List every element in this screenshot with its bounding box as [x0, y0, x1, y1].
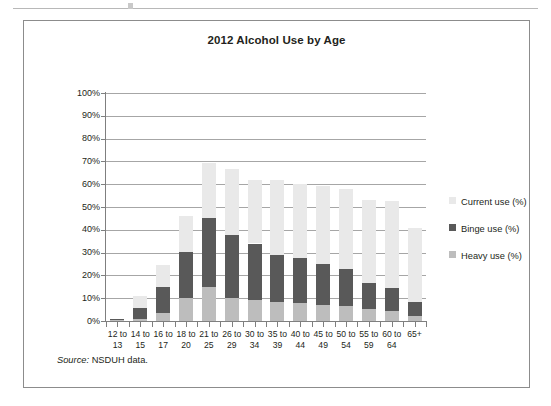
bar-segment-binge[interactable] [248, 244, 262, 301]
x-axis-tick-mark [369, 322, 370, 327]
x-axis-tick-mark [163, 322, 164, 327]
bar-segment-current[interactable] [225, 169, 239, 235]
y-axis-tick-label: 0% [64, 317, 100, 326]
bar-segment-heavy[interactable] [293, 303, 307, 321]
bar-stack[interactable] [179, 93, 193, 321]
chart-title: 2012 Alcohol Use by Age [24, 34, 529, 46]
bar-stack[interactable] [202, 93, 216, 321]
y-axis-tick-label: 90% [64, 111, 100, 120]
x-axis-tick-mark [209, 322, 210, 327]
bar-segment-heavy[interactable] [385, 311, 399, 321]
bar-segment-binge[interactable] [339, 269, 353, 306]
x-axis-tick-mark [403, 322, 404, 327]
bar-segment-binge[interactable] [225, 235, 239, 298]
bar-segment-current[interactable] [316, 186, 330, 264]
bar-stack[interactable] [316, 93, 330, 321]
bar-segment-heavy[interactable] [202, 287, 216, 321]
y-axis-tick-label: 30% [64, 248, 100, 257]
x-axis-tick-mark [152, 322, 153, 327]
bar-segment-heavy[interactable] [179, 298, 193, 321]
x-axis-tick-mark [266, 322, 267, 327]
bar-segment-binge[interactable] [362, 283, 376, 310]
bar-stack[interactable] [362, 93, 376, 321]
y-axis-tick-label: 70% [64, 157, 100, 166]
x-axis-tick-mark [357, 322, 358, 327]
x-axis-tick-mark [243, 322, 244, 327]
y-axis-tick-label: 40% [64, 225, 100, 234]
page-top-artifact [128, 3, 133, 9]
x-axis-tick-label: 65+ [392, 329, 438, 340]
plot-area [106, 93, 426, 321]
x-axis-tick-mark [289, 322, 290, 327]
bar-stack[interactable] [133, 93, 147, 321]
bar-stack[interactable] [248, 93, 262, 321]
legend-swatch-icon [449, 197, 456, 204]
x-axis-tick-mark [106, 322, 107, 327]
bar-segment-heavy[interactable] [270, 302, 284, 321]
x-axis-tick-mark [415, 322, 416, 327]
bar-segment-current[interactable] [362, 200, 376, 283]
bar-segment-current[interactable] [408, 228, 422, 302]
bar-segment-heavy[interactable] [156, 313, 170, 321]
bar-segment-binge[interactable] [385, 288, 399, 311]
bar-segment-binge[interactable] [316, 264, 330, 305]
legend-swatch-icon [449, 251, 456, 258]
bar-stack[interactable] [110, 93, 124, 321]
bar-segment-heavy[interactable] [362, 309, 376, 321]
bar-segment-current[interactable] [339, 189, 353, 269]
bar-segment-current[interactable] [133, 296, 147, 308]
bar-segment-current[interactable] [270, 180, 284, 255]
legend-label: Binge use (%) [461, 224, 519, 234]
bar-segment-current[interactable] [179, 216, 193, 252]
bar-segment-binge[interactable] [156, 287, 170, 314]
bar-segment-current[interactable] [156, 265, 170, 287]
bar-segment-binge[interactable] [270, 255, 284, 302]
x-axis-tick-mark [175, 322, 176, 327]
bar-segment-heavy[interactable] [316, 305, 330, 321]
source-note: Source: NSDUH data. [57, 355, 148, 365]
legend-item[interactable]: Current use (%) [449, 191, 527, 218]
bar-segment-current[interactable] [385, 201, 399, 288]
figure-container: 2012 Alcohol Use by Age 100%90%80%70%60%… [23, 20, 530, 388]
bar-segment-current[interactable] [293, 184, 307, 259]
bar-segment-heavy[interactable] [225, 298, 239, 321]
x-axis-tick-mark [300, 322, 301, 327]
bar-stack[interactable] [339, 93, 353, 321]
source-text: NSDUH data. [92, 355, 148, 365]
x-axis-tick-mark [277, 322, 278, 327]
y-axis-tick-label: 50% [64, 203, 100, 212]
bar-stack[interactable] [225, 93, 239, 321]
bar-segment-heavy[interactable] [248, 300, 262, 321]
bar-segment-current[interactable] [248, 180, 262, 244]
bar-segment-binge[interactable] [202, 218, 216, 287]
bar-stack[interactable] [293, 93, 307, 321]
legend-item[interactable]: Heavy use (%) [449, 245, 527, 272]
x-axis-tick-mark [323, 322, 324, 327]
legend-label: Current use (%) [461, 197, 527, 207]
bar-stack[interactable] [408, 93, 422, 321]
page-top-rule [13, 8, 538, 9]
x-axis-tick-mark [312, 322, 313, 327]
bar-segment-binge[interactable] [133, 308, 147, 318]
legend-item[interactable]: Binge use (%) [449, 218, 527, 245]
x-axis-tick-mark [129, 322, 130, 327]
x-axis-tick-mark [346, 322, 347, 327]
bar-segment-heavy[interactable] [339, 306, 353, 321]
legend-swatch-icon [449, 224, 456, 231]
y-axis-tick-label: 80% [64, 134, 100, 143]
bar-stack[interactable] [156, 93, 170, 321]
x-axis-tick-label-line: 65+ [392, 329, 438, 340]
bar-stack[interactable] [270, 93, 284, 321]
x-axis-tick-mark [392, 322, 393, 327]
bar-segment-binge[interactable] [293, 258, 307, 302]
x-axis-tick-mark [140, 322, 141, 327]
bar-stack[interactable] [385, 93, 399, 321]
x-axis-tick-mark [232, 322, 233, 327]
bar-segment-binge[interactable] [408, 302, 422, 317]
x-axis-tick-mark [255, 322, 256, 327]
x-axis-tick-mark [117, 322, 118, 327]
figure-page: 2012 Alcohol Use by Age 100%90%80%70%60%… [0, 0, 551, 406]
y-axis-tick-label: 10% [64, 294, 100, 303]
bar-segment-binge[interactable] [179, 252, 193, 298]
bar-segment-current[interactable] [202, 163, 216, 219]
